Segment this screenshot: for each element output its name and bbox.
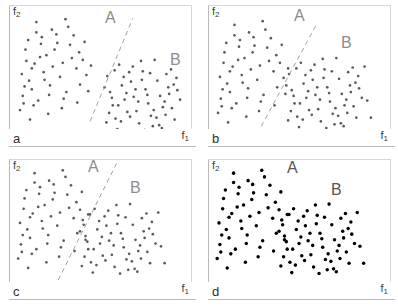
panel-d-bottom-rule	[208, 299, 395, 300]
panel-a-letter: a	[13, 132, 20, 145]
panel-c-cluster-label-b: B	[130, 180, 141, 196]
panel-a-bottom-rule	[9, 146, 196, 147]
panel-c-points	[10, 160, 191, 282]
panel-c-bottom-rule	[9, 299, 196, 300]
panel-c-scatter	[10, 160, 191, 282]
panel-a-cluster-label-a: A	[105, 10, 116, 26]
panel-a-x-axis-label: f1	[181, 130, 189, 143]
panel-a: A B f2 f1 a	[0, 0, 199, 154]
panel-b-bottom-rule	[208, 146, 395, 147]
panel-b-letter: b	[212, 132, 219, 145]
panel-b-scatter	[209, 6, 390, 129]
panel-d-points	[209, 160, 390, 282]
panel-a-plot-frame	[9, 5, 192, 129]
panel-d-cluster-label-b: B	[331, 182, 342, 198]
panel-a-scatter	[10, 6, 191, 129]
panel-d-cluster-label-a: A	[287, 160, 298, 176]
panel-b: A B f2 f1 b	[199, 0, 398, 154]
panel-d: A B f2 f1 d	[199, 154, 398, 307]
panel-c: A B f2 f1 c	[0, 154, 199, 307]
panel-b-points	[209, 6, 390, 129]
panel-b-cluster-label-b: B	[341, 35, 352, 51]
panel-a-points	[10, 6, 191, 129]
panel-d-y-axis-label: f2	[212, 160, 220, 173]
panel-c-letter: c	[13, 285, 20, 298]
panel-a-y-axis-label: f2	[13, 6, 21, 19]
scatter-figure: A B f2 f1 a A B f2 f1 b	[0, 0, 398, 307]
panel-b-x-axis-label: f1	[380, 130, 388, 143]
panel-c-y-axis-label: f2	[13, 160, 21, 173]
panel-d-scatter	[209, 160, 390, 282]
panel-c-plot-frame	[9, 159, 192, 282]
panel-b-cluster-label-a: A	[294, 8, 305, 24]
panel-d-plot-frame	[208, 159, 391, 282]
panel-a-cluster-label-b: B	[170, 52, 181, 68]
panel-b-y-axis-label: f2	[212, 6, 220, 19]
panel-c-x-axis-label: f1	[181, 283, 189, 296]
panel-d-letter: d	[212, 285, 219, 298]
panel-d-x-axis-label: f1	[380, 283, 388, 296]
panel-c-cluster-label-a: A	[88, 159, 99, 175]
